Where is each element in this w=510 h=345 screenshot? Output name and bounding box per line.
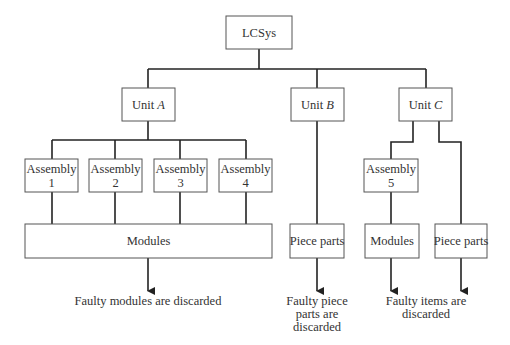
outcome-unit-a: Faulty modules are discarded: [75, 294, 223, 308]
node-unit-a: Unit A: [122, 88, 175, 121]
node-assembly-1: Assembly 1: [25, 159, 78, 192]
assembly-2-line1: Assembly: [91, 162, 142, 176]
outcome-unit-c-line2: discarded: [402, 307, 451, 321]
svg-text:Unit B: Unit B: [301, 98, 334, 112]
svg-text:Unit A: Unit A: [132, 98, 165, 112]
node-unit-c-modules: Modules: [365, 224, 419, 258]
assembly-3-line1: Assembly: [156, 162, 207, 176]
unit-a-prefix: Unit: [132, 98, 157, 112]
unit-a-letter: A: [156, 98, 165, 112]
node-lcsys-label: LCSys: [242, 26, 276, 40]
unit-c-piece-parts-label: Piece parts: [434, 234, 489, 248]
node-unit-b-piece-parts: Piece parts: [290, 224, 345, 258]
node-unit-c: Unit C: [399, 88, 452, 121]
assembly-1-line1: Assembly: [27, 162, 78, 176]
node-assembly-4: Assembly 4: [219, 159, 272, 192]
outcome-unit-b-line3: discarded: [293, 320, 342, 334]
node-unit-c-piece-parts: Piece parts: [434, 224, 489, 258]
outcome-unit-b: Faulty piece parts are discarded: [286, 294, 348, 334]
unit-b-piece-parts-label: Piece parts: [290, 234, 345, 248]
assembly-2-line2: 2: [112, 176, 118, 190]
node-assembly-2: Assembly 2: [89, 159, 142, 192]
outcome-unit-b-line2: parts are: [296, 307, 339, 321]
svg-text:Unit C: Unit C: [409, 98, 443, 112]
outcome-unit-c: Faulty items are discarded: [386, 294, 467, 321]
assembly-1-line2: 1: [48, 176, 54, 190]
assembly-5-line2: 5: [388, 176, 394, 190]
unit-b-prefix: Unit: [301, 98, 326, 112]
lcsys-hierarchy-diagram: LCSys Unit A Unit B Unit C Assembly 1 As…: [0, 0, 510, 345]
assembly-4-line2: 4: [242, 176, 249, 190]
outcome-unit-a-line1: Faulty modules are discarded: [75, 294, 223, 308]
outcome-unit-c-line1: Faulty items are: [386, 294, 467, 308]
outcome-unit-b-line1: Faulty piece: [286, 294, 348, 308]
node-assembly-5: Assembly 5: [364, 159, 418, 192]
unit-c-modules-label: Modules: [370, 234, 414, 248]
node-lcsys: LCSys: [226, 16, 292, 49]
unit-c-letter: C: [434, 98, 443, 112]
assembly-3-line2: 3: [177, 176, 183, 190]
unit-b-letter: B: [326, 98, 334, 112]
node-assembly-3: Assembly 3: [154, 159, 207, 192]
unit-a-modules-label: Modules: [127, 234, 171, 248]
assembly-4-line1: Assembly: [221, 162, 272, 176]
node-unit-a-modules: Modules: [25, 224, 272, 258]
unit-c-prefix: Unit: [409, 98, 434, 112]
node-unit-b: Unit B: [291, 88, 344, 121]
assembly-5-line1: Assembly: [366, 162, 417, 176]
